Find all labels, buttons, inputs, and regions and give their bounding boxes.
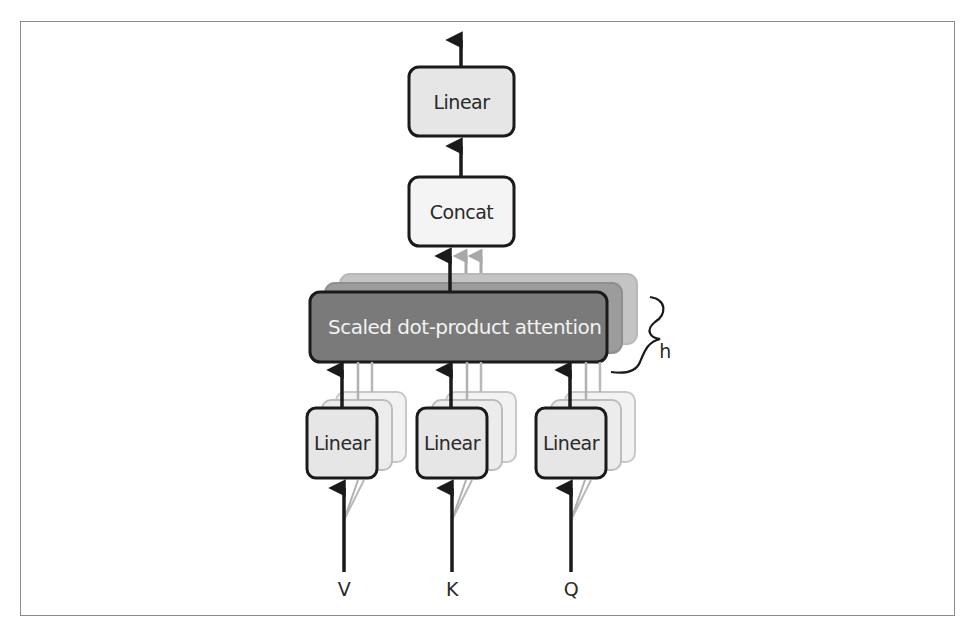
input-q-label: Q: [561, 576, 581, 602]
output-linear-label: Linear: [409, 67, 514, 136]
linear-v-label: Linear: [307, 408, 377, 478]
heads-count-label: h: [656, 338, 674, 364]
input-k-label: K: [442, 576, 462, 602]
linear-k-label: Linear: [417, 408, 487, 478]
attention-label: Scaled dot-product attention: [310, 292, 607, 362]
input-v-label: V: [334, 576, 354, 602]
linear-q-label: Linear: [536, 408, 606, 478]
concat-label: Concat: [409, 177, 514, 246]
